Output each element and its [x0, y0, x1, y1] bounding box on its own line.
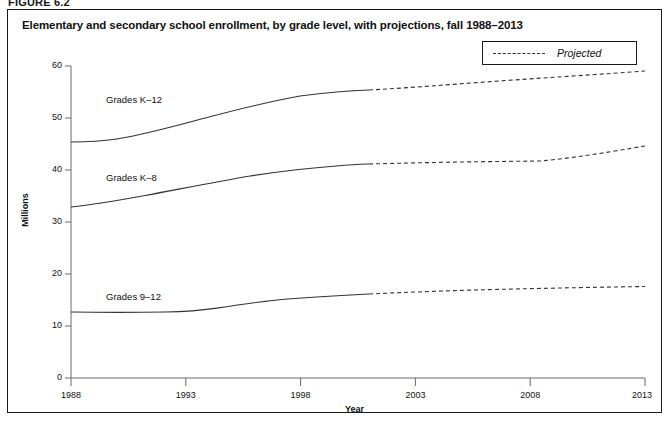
- y-tick-label-50: 50: [36, 112, 62, 122]
- series-line-grades-k-12-projected: [369, 71, 645, 90]
- x-tick-label-1998: 1998: [281, 390, 321, 400]
- x-axis-ticks: [71, 378, 645, 386]
- series-label-grades-k-12: Grades K–12: [106, 94, 162, 105]
- x-axis-title: Year: [345, 404, 364, 414]
- x-tick-label-2008: 2008: [510, 390, 550, 400]
- y-tick-label-10: 10: [36, 320, 62, 330]
- x-tick-label-2013: 2013: [622, 390, 662, 400]
- chart-legend: Projected: [482, 41, 637, 65]
- series-label-grades-k-8: Grades K–8: [106, 172, 157, 183]
- series-lines: [71, 71, 645, 312]
- x-tick-label-1988: 1988: [51, 390, 91, 400]
- series-line-grades-9-12-projected: [369, 287, 645, 295]
- series-label-grades-9-12: Grades 9–12: [106, 291, 161, 302]
- x-tick-label-1993: 1993: [166, 390, 206, 400]
- y-tick-label-20: 20: [36, 268, 62, 278]
- y-tick-label-30: 30: [36, 216, 62, 226]
- series-line-grades-k-8-solid: [71, 164, 369, 207]
- legend-dashed-line-swatch: [493, 53, 545, 54]
- y-tick-label-0: 0: [36, 372, 62, 382]
- series-line-grades-k-8-projected: [369, 146, 645, 164]
- y-tick-label-60: 60: [36, 60, 62, 70]
- y-tick-label-40: 40: [36, 164, 62, 174]
- y-axis-ticks: [65, 66, 71, 378]
- legend-label-projected: Projected: [557, 47, 601, 59]
- axis-lines: [71, 66, 645, 378]
- y-axis-title: Millions: [20, 180, 30, 240]
- x-tick-label-2003: 2003: [395, 390, 435, 400]
